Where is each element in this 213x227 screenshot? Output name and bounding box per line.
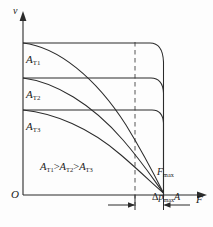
velocity-force-characteristic-diagram: v F O AT1 AT2 AT3 AT1>AT2>AT3 Fmax Δpmax… [0, 0, 213, 227]
fmax-sub: max [163, 171, 174, 178]
curve-label-at1-base: A [26, 53, 33, 65]
origin-label: O [11, 189, 19, 200]
inequality-a3-sub: T3 [86, 166, 93, 173]
inequality-a3: A [79, 161, 85, 172]
curve-label-at3-sub: T3 [33, 126, 41, 133]
plateau-curve-at2 [23, 78, 164, 193]
inequality-a2-sub: T2 [66, 166, 73, 173]
diagram-canvas [0, 0, 213, 227]
curve-at2 [23, 78, 164, 193]
inequality-annotation: AT1>AT2>AT3 [40, 162, 93, 173]
y-axis-label: v [13, 6, 17, 16]
plateau-curve-at3 [23, 110, 164, 193]
curve-label-at2: AT2 [26, 89, 40, 100]
dimension-arrowhead-left [128, 202, 135, 207]
inequality-a1-sub: T1 [46, 166, 53, 173]
fmax-label: Fmax [157, 167, 174, 177]
curve-label-at3: AT3 [26, 121, 40, 132]
curve-label-at2-sub: T2 [33, 94, 41, 101]
curve-label-at1: AT1 [26, 54, 40, 65]
delta-p-max-area-label: ΔpmaxA [152, 192, 180, 202]
dimension-arrowhead-right [164, 202, 171, 207]
x-axis-label: F [196, 194, 203, 205]
curve-label-at1-sub: T1 [33, 59, 41, 66]
pressure-sub: max [163, 196, 174, 203]
y-axis-arrowhead [20, 11, 27, 21]
curve-at3 [23, 110, 164, 193]
curve-label-at2-base: A [26, 88, 33, 100]
area-symbol: A [174, 191, 180, 202]
curve-label-at3-base: A [26, 120, 33, 132]
